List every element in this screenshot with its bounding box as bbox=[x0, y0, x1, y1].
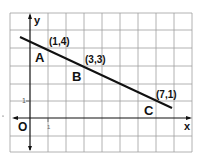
origin-label: O bbox=[18, 120, 27, 134]
y-axis-arrow-down-icon bbox=[28, 146, 32, 151]
point-b-coord: (3,3) bbox=[85, 54, 106, 65]
stray-dot bbox=[2, 115, 3, 116]
point-a-coord: (1,4) bbox=[49, 36, 70, 47]
y-axis-label: y bbox=[34, 14, 41, 26]
tick-x-label: 1 bbox=[47, 124, 51, 130]
point-c-label: C bbox=[144, 103, 154, 118]
coordinate-grid-diagram: y x O 1 1 (1,4) A (3,3) B (7,1) C bbox=[0, 0, 200, 154]
x-axis-label: x bbox=[184, 120, 191, 132]
point-b-label: B bbox=[72, 69, 81, 84]
y-axis-arrow-icon bbox=[28, 13, 32, 19]
tick-y-label: 1 bbox=[22, 97, 26, 104]
point-a-label: A bbox=[35, 50, 45, 65]
point-c-coord: (7,1) bbox=[156, 89, 177, 100]
grid bbox=[10, 13, 192, 152]
